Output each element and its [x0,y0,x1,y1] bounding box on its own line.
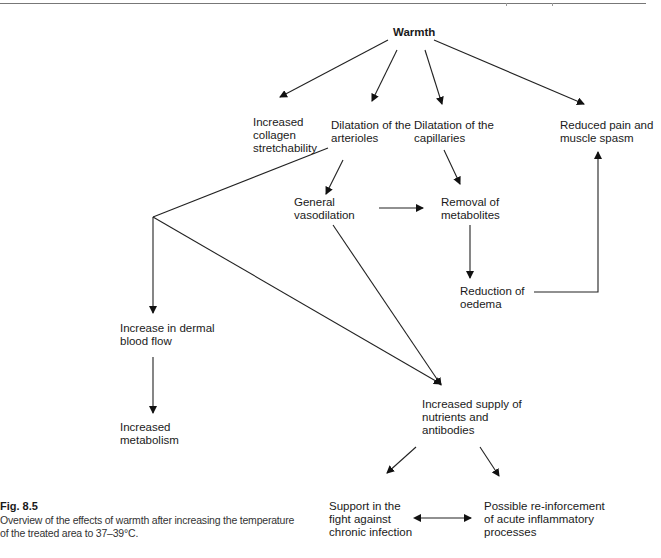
edge-warmth-collagen [280,40,388,97]
node-warmth: Warmth [393,26,435,39]
edge-warmth-capillaries [425,50,442,104]
node-pain: Reduced pain and muscle spasm [560,119,653,145]
edge-vasodilation-supply [333,225,441,385]
edge-warmth-arterioles [372,50,397,101]
node-chronic: Support in the fight against chronic inf… [329,500,412,539]
node-metabolism: Increased metabolism [120,421,179,447]
node-dermal: Increase in dermal blood flow [120,322,215,348]
arrow-connectors [0,0,661,558]
figure-caption: Overview of the effects of warmth after … [0,514,300,540]
edge-supply-acute [480,447,499,476]
edge-warmth-pain [434,40,584,104]
node-collagen: Increased collagen stretchability [253,116,317,155]
edge-capillaries-metabolites [444,150,460,184]
edge-oedema-pain [534,152,598,292]
figure-label: Fig. 8.5 [0,500,38,512]
node-arterioles: Dilatation of the arterioles [331,119,411,145]
edge-supply-chronic [387,447,416,473]
node-capillaries: Dilatation of the capillaries [414,119,494,145]
node-supply: Increased supply of nutrients and antibo… [422,398,522,437]
edge-arterioles-vasodilation [326,160,343,194]
node-vasodilation: General vasodilation [294,196,355,222]
node-oedema: Reduction of oedema [460,285,525,311]
node-acute: Possible re-inforcement of acute inflamm… [484,500,605,539]
edge-branch-supply [153,217,441,384]
node-metabolites: Removal of metabolites [441,196,500,222]
